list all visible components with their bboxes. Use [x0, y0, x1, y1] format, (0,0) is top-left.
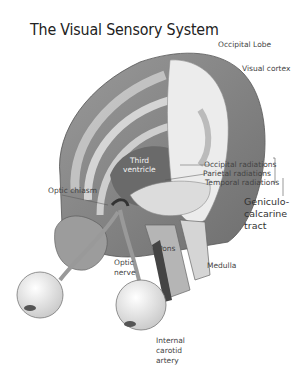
label-parietal-radiations: Parietal radiations	[203, 169, 271, 178]
label-carotid-1: Internal	[156, 336, 185, 345]
label-optic-chiasm: Optic chiasm	[48, 186, 97, 195]
label-carotid-2: carotid	[156, 346, 182, 355]
left-eyeball	[17, 272, 63, 318]
label-optic-nerve-1: Optic	[114, 258, 134, 267]
label-optic-nerve-2: nerve	[114, 268, 136, 277]
label-third-ventricle-2: ventricle	[123, 165, 156, 174]
label-geniculo-3: tract	[244, 220, 266, 231]
brain-illustration	[0, 0, 308, 382]
label-occipital-lobe: Occipital Lobe	[218, 40, 271, 49]
label-occipital-radiations: Occipital radiations	[204, 160, 276, 169]
label-medulla: Medulla	[207, 261, 236, 270]
label-visual-cortex: Visual cortex	[242, 64, 290, 73]
label-geniculo-2: calcarine	[244, 208, 287, 219]
label-temporal-radiations: Temporal radiations	[205, 178, 279, 187]
label-pons: Pons	[158, 244, 176, 253]
label-carotid-3: artery	[156, 356, 179, 365]
label-geniculo-1: Geniculo-	[244, 196, 289, 207]
right-eyeball	[116, 280, 166, 330]
label-third-ventricle-1: Third	[130, 156, 149, 165]
page-title: The Visual Sensory System	[30, 21, 219, 39]
